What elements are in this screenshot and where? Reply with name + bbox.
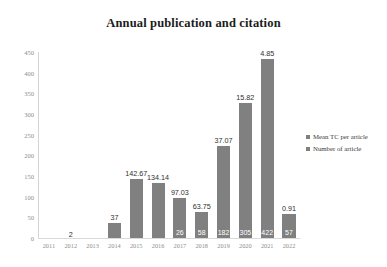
bar[interactable]: 0.9157	[282, 214, 295, 238]
bar-slot: 134.14	[147, 52, 169, 238]
y-axis-ticks: 050100150200250300350400450	[0, 52, 34, 238]
bar-value-label: 4.85	[260, 49, 274, 58]
bar-count-label: 57	[285, 229, 293, 236]
bar-slot: 4.85422	[256, 52, 278, 238]
bar-slot	[38, 52, 60, 238]
legend-item[interactable]: Mean TC per article	[306, 133, 386, 140]
y-axis-tick-label: 50	[28, 214, 35, 221]
bar-slot: 142.67	[125, 52, 147, 238]
x-axis-tick-label: 2019	[213, 240, 235, 256]
plot-area: 237142.67134.1497.032663.755837.0718215.…	[38, 52, 300, 238]
bar[interactable]: 134.14	[152, 183, 165, 238]
legend-swatch-icon	[306, 147, 310, 151]
y-axis-tick-label: 200	[24, 152, 34, 159]
bar-value-label: 97.03	[171, 188, 189, 197]
bar-count-label: 422	[261, 229, 273, 236]
y-axis-tick-label: 150	[24, 173, 34, 180]
bar-value-label: 0.91	[282, 204, 296, 213]
bar-value-label: 142.67	[125, 169, 147, 178]
bar-value-label: 15.82	[236, 93, 254, 102]
y-axis-tick-label: 250	[24, 131, 34, 138]
bar-slot: 37.07182	[213, 52, 235, 238]
legend-swatch-icon	[306, 135, 310, 139]
bar[interactable]: 4.85422	[261, 59, 274, 238]
y-axis-tick-label: 300	[24, 111, 34, 118]
bar[interactable]: 97.0326	[173, 198, 186, 238]
y-axis-tick-label: 350	[24, 90, 34, 97]
legend-item[interactable]: Number of article	[306, 145, 386, 152]
x-axis-tick-label: 2013	[82, 240, 104, 256]
x-axis-tick-label: 2011	[38, 240, 60, 256]
bar-slot: 15.82305	[234, 52, 256, 238]
bar-slot	[82, 52, 104, 238]
bar[interactable]: 37.07182	[217, 146, 230, 238]
x-axis-tick-label: 2014	[103, 240, 125, 256]
bar-value-label: 63.75	[193, 202, 211, 211]
x-axis-tick-label: 2017	[169, 240, 191, 256]
y-axis-tick-label: 100	[24, 193, 34, 200]
x-axis-tick-label: 2020	[234, 240, 256, 256]
bar[interactable]: 15.82305	[239, 103, 252, 238]
y-axis-tick-label: 400	[24, 69, 34, 76]
x-axis-tick-label: 2018	[191, 240, 213, 256]
bar-series: 237142.67134.1497.032663.755837.0718215.…	[38, 52, 300, 238]
x-axis-tick-label: 2016	[147, 240, 169, 256]
bar-count-label: 26	[176, 229, 184, 236]
chart-legend: Mean TC per articleNumber of article	[306, 133, 386, 157]
y-axis-tick-label: 0	[31, 235, 34, 242]
x-axis-tick-label: 2012	[60, 240, 82, 256]
bar-slot: 63.7558	[191, 52, 213, 238]
bar-value-label: 37.07	[215, 136, 233, 145]
legend-label: Mean TC per article	[313, 133, 368, 140]
x-axis-line	[38, 238, 300, 239]
bar-slot: 97.0326	[169, 52, 191, 238]
bar-count-label: 58	[198, 229, 206, 236]
bar-slot: 0.9157	[278, 52, 300, 238]
x-axis-tick-label: 2022	[278, 240, 300, 256]
x-axis-ticks: 2011201220132014201520162017201820192020…	[38, 240, 300, 256]
chart-container: Annual publication and citation 05010015…	[0, 0, 387, 267]
bar-slot: 37	[103, 52, 125, 238]
x-axis-tick-label: 2021	[256, 240, 278, 256]
bar-value-label: 2	[69, 230, 73, 239]
chart-title: Annual publication and citation	[0, 16, 387, 31]
bar-count-label: 305	[240, 229, 252, 236]
bar[interactable]: 63.7558	[195, 212, 208, 238]
bar-count-label: 182	[218, 229, 230, 236]
bar-value-label: 134.14	[147, 173, 169, 182]
bar[interactable]: 37	[108, 223, 121, 238]
bar[interactable]: 142.67	[130, 179, 143, 238]
bar-slot: 2	[60, 52, 82, 238]
legend-label: Number of article	[313, 145, 361, 152]
x-axis-tick-label: 2015	[125, 240, 147, 256]
bar-value-label: 37	[110, 213, 118, 222]
y-axis-tick-label: 450	[24, 49, 34, 56]
